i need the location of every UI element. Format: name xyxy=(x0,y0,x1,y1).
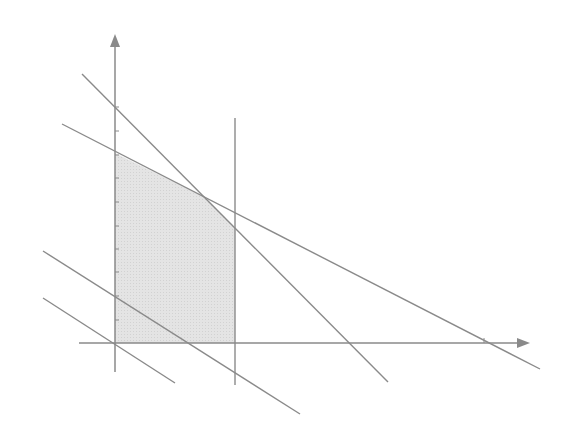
lp-feasible-region-diagram xyxy=(0,0,574,435)
x-axis-arrow-icon xyxy=(517,338,530,348)
y-axis-arrow-icon xyxy=(110,34,120,47)
